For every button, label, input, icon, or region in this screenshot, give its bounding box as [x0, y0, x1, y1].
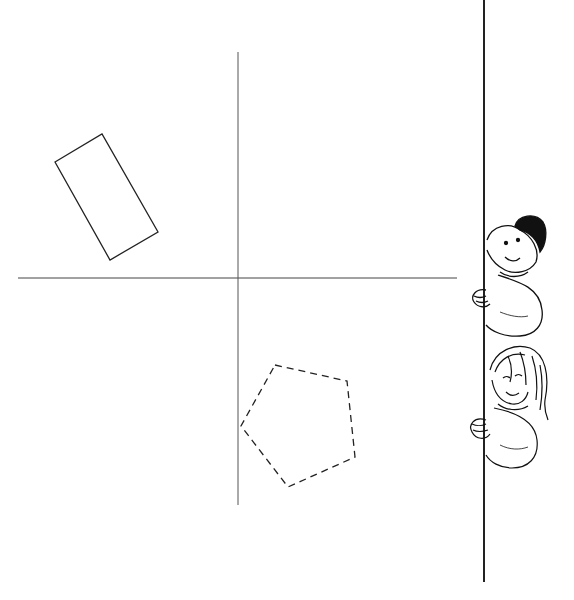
pentagon-shape	[241, 365, 355, 487]
rectangle-shape	[55, 134, 158, 260]
girl-character	[471, 346, 548, 468]
diagram-canvas	[0, 0, 574, 600]
